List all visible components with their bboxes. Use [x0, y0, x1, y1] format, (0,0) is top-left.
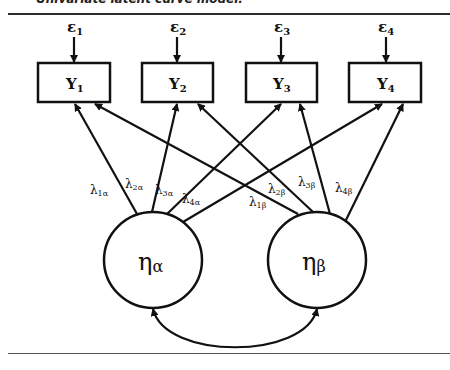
loading-label-4a: λ4α [182, 192, 201, 207]
svg-text:ε2: ε2 [170, 18, 186, 37]
loading-label-3b: λ3β [298, 175, 316, 190]
loading-label-3a: λ3α [155, 183, 174, 198]
error-term-2: ε2 [170, 18, 186, 62]
error-term-4: ε4 [378, 18, 394, 62]
loading-label-2a: λ2α [125, 177, 144, 192]
loading-label-1b: λ1β [249, 195, 267, 210]
observed-y2: Y2 [142, 63, 213, 102]
error-term-3: ε3 [274, 18, 290, 62]
observed-y1: Y1 [38, 63, 110, 102]
path-diagram: ε1 ε2 ε3 ε4 Y1 Y2 Y3 Y4 [0, 0, 450, 370]
covariance-arrow [153, 309, 317, 347]
error-term-1: ε1 [67, 18, 83, 62]
observed-y4: Y4 [349, 63, 421, 102]
svg-text:ε3: ε3 [274, 18, 290, 37]
loading-label-1a: λ1α [90, 183, 109, 198]
latent-eta-beta: ηβ [268, 212, 366, 308]
loading-label-4b: λ4β [335, 181, 353, 196]
loadings-alpha-paths [75, 104, 382, 222]
observed-y3: Y3 [246, 63, 317, 102]
svg-text:ε4: ε4 [378, 18, 394, 37]
latent-eta-alpha: ηα [104, 212, 202, 308]
svg-text:ε1: ε1 [67, 18, 83, 37]
